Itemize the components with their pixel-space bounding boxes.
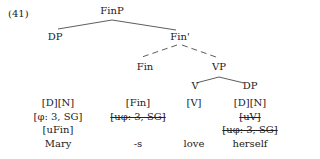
feature-phi: [φ: 3, SG]: [34, 110, 83, 124]
feature-empty: [110, 123, 165, 137]
feature-empty: [184, 110, 205, 124]
feature-empty: [184, 123, 205, 137]
node-fin-bar: Fin': [170, 31, 189, 43]
word-love: love: [184, 137, 205, 151]
node-v: V: [191, 80, 198, 92]
node-finp: FinP: [100, 5, 123, 17]
feature-uphi-checked: [uφ: 3, SG]: [222, 123, 277, 137]
feature-uv-checked: [uV]: [222, 110, 277, 124]
feature-categorial: [D][N]: [34, 96, 83, 110]
node-fin: Fin: [137, 61, 154, 73]
word-mary: Mary: [34, 137, 83, 151]
feature-uphi-checked: [uφ: 3, SG]: [110, 110, 165, 124]
feature-v: [V]: [184, 96, 205, 110]
column-herself: [D][N] [uV] [uφ: 3, SG] herself: [222, 96, 277, 150]
feature-categorial: [D][N]: [222, 96, 277, 110]
word-herself: herself: [222, 137, 277, 151]
node-dp-spec: DP: [48, 31, 63, 43]
branch-finp-finbar: [112, 20, 176, 30]
feature-ufin: [uFin]: [34, 123, 83, 137]
word-s: -s: [110, 137, 165, 151]
branch-finbar-fin-dashed: [142, 45, 177, 57]
branch-finbar-vp-dashed: [182, 45, 216, 57]
column-love: [V] love: [184, 96, 205, 150]
node-dp-obj: DP: [243, 80, 258, 92]
column-fin: [Fin] [uφ: 3, SG] -s: [110, 96, 165, 150]
branch-vp-dp: [219, 77, 244, 83]
branch-finp-dp: [58, 20, 112, 29]
node-vp: VP: [212, 61, 226, 73]
feature-fin: [Fin]: [110, 96, 165, 110]
column-mary: [D][N] [φ: 3, SG] [uFin] Mary: [34, 96, 83, 150]
branch-vp-v: [196, 77, 219, 83]
